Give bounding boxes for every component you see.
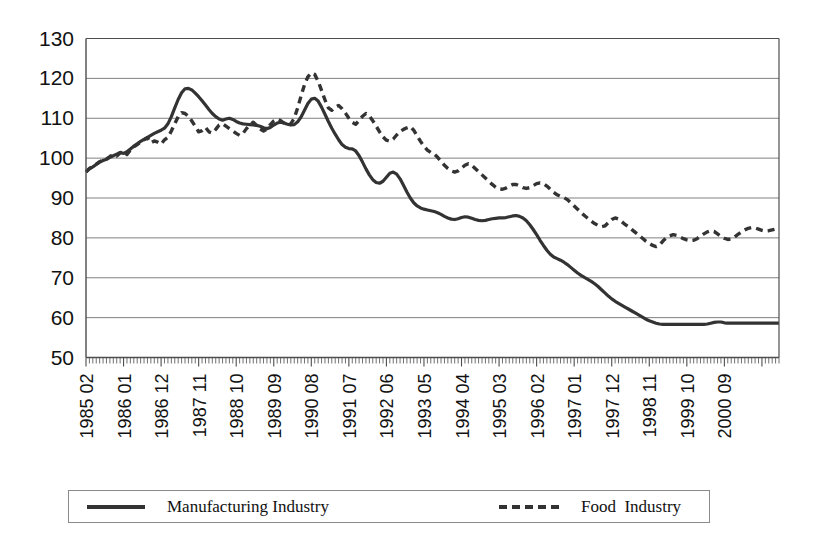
legend-swatch-solid-line xyxy=(87,505,145,509)
svg-text:1993 05: 1993 05 xyxy=(415,374,435,439)
svg-text:90: 90 xyxy=(51,186,74,209)
svg-text:1990 08: 1990 08 xyxy=(302,374,322,439)
svg-text:1986 12: 1986 12 xyxy=(152,374,172,439)
svg-text:1998 11: 1998 11 xyxy=(640,374,660,438)
svg-text:1999 10: 1999 10 xyxy=(678,374,698,439)
legend-swatch-dashed-line xyxy=(499,505,559,509)
svg-text:80: 80 xyxy=(51,226,74,249)
legend-label-manufacturing: Manufacturing Industry xyxy=(167,497,329,517)
legend-entry-manufacturing: Manufacturing Industry xyxy=(87,497,329,517)
svg-text:2000 09: 2000 09 xyxy=(715,374,735,439)
gridlines xyxy=(86,39,779,358)
legend-entry-food: Food Industry xyxy=(499,497,681,517)
legend-label-food: Food Industry xyxy=(581,497,681,517)
svg-text:1987 11: 1987 11 xyxy=(190,374,210,438)
svg-text:1989 09: 1989 09 xyxy=(265,374,285,439)
svg-text:100: 100 xyxy=(39,146,74,169)
svg-text:1986 01: 1986 01 xyxy=(115,374,135,439)
svg-text:1985 02: 1985 02 xyxy=(77,374,97,439)
line-chart: 5060708090100110120130 1985 021986 01198… xyxy=(0,0,816,556)
svg-text:1997 01: 1997 01 xyxy=(565,374,585,439)
y-axis-tick-labels: 5060708090100110120130 xyxy=(39,27,74,369)
svg-text:1996 02: 1996 02 xyxy=(528,374,548,439)
svg-text:1997 12: 1997 12 xyxy=(603,374,623,439)
x-axis-tick-labels: 1985 021986 011986 121987 111988 101989 … xyxy=(77,374,735,439)
svg-text:1994 04: 1994 04 xyxy=(453,374,473,439)
svg-text:70: 70 xyxy=(51,266,74,289)
svg-text:110: 110 xyxy=(41,106,74,129)
svg-text:60: 60 xyxy=(51,306,74,329)
svg-text:120: 120 xyxy=(39,66,74,89)
chart-page: 5060708090100110120130 1985 021986 01198… xyxy=(0,0,816,556)
svg-text:1988 10: 1988 10 xyxy=(227,374,247,439)
legend: Manufacturing Industry Food Industry xyxy=(68,490,710,523)
data-series xyxy=(86,73,779,325)
svg-text:1992 06: 1992 06 xyxy=(377,374,397,439)
svg-text:1995 03: 1995 03 xyxy=(490,374,510,439)
svg-text:130: 130 xyxy=(39,27,74,50)
svg-text:50: 50 xyxy=(51,346,74,369)
svg-text:1991 07: 1991 07 xyxy=(340,374,360,439)
x-axis-tick-marks xyxy=(86,358,779,367)
